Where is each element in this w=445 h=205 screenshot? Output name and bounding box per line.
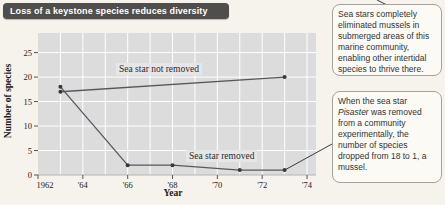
callout-two-species-name: Pisaster xyxy=(338,107,369,117)
callout-pisaster-removed: When the sea star Pisaster was removed f… xyxy=(332,91,442,183)
data-point xyxy=(58,90,62,94)
y-tick-label: 0 xyxy=(28,170,32,180)
x-tick-label: '74 xyxy=(302,180,313,190)
data-point xyxy=(238,168,242,172)
x-axis-title: Year xyxy=(123,188,223,198)
keystone-species-figure: 1962'64'66'68'70'72'740510152025 Loss of… xyxy=(0,0,445,205)
figure-title-bar: Loss of a keystone species reduces diver… xyxy=(3,3,229,19)
x-tick-label: '72 xyxy=(257,180,267,190)
y-tick-label: 10 xyxy=(24,121,33,131)
callout-sea-stars-eliminated: Sea stars completely eliminated mussels … xyxy=(332,4,442,76)
x-tick-label: '64 xyxy=(78,180,89,190)
plot-area xyxy=(38,33,316,175)
data-point xyxy=(126,163,130,167)
series-label-sea-star-removed: Sea star removed xyxy=(186,150,257,162)
data-point xyxy=(283,168,287,172)
y-tick-label: 5 xyxy=(28,146,32,156)
callout-one-text: Sea stars completely eliminated mussels … xyxy=(338,9,429,74)
data-point xyxy=(283,75,287,79)
y-tick-label: 25 xyxy=(24,48,33,58)
callout-two-pre: When the sea star xyxy=(338,96,407,106)
x-tick-label: 1962 xyxy=(37,180,54,190)
data-point xyxy=(58,85,62,89)
y-tick-label: 20 xyxy=(24,72,33,82)
series-label-sea-star-not-removed: Sea star not removed xyxy=(116,63,202,75)
y-tick-label: 15 xyxy=(24,97,33,107)
y-axis-title: Number of species xyxy=(3,49,13,153)
data-point xyxy=(171,163,175,167)
